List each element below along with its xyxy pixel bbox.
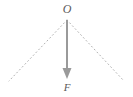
force-diagram-figure: O F (0, 0, 133, 97)
force-vector-label: F (64, 82, 71, 93)
apex-point-label: O (63, 3, 72, 15)
right-dotted-ray (67, 20, 124, 81)
force-arrow-head-icon (63, 68, 72, 79)
left-dotted-ray (9, 20, 67, 81)
